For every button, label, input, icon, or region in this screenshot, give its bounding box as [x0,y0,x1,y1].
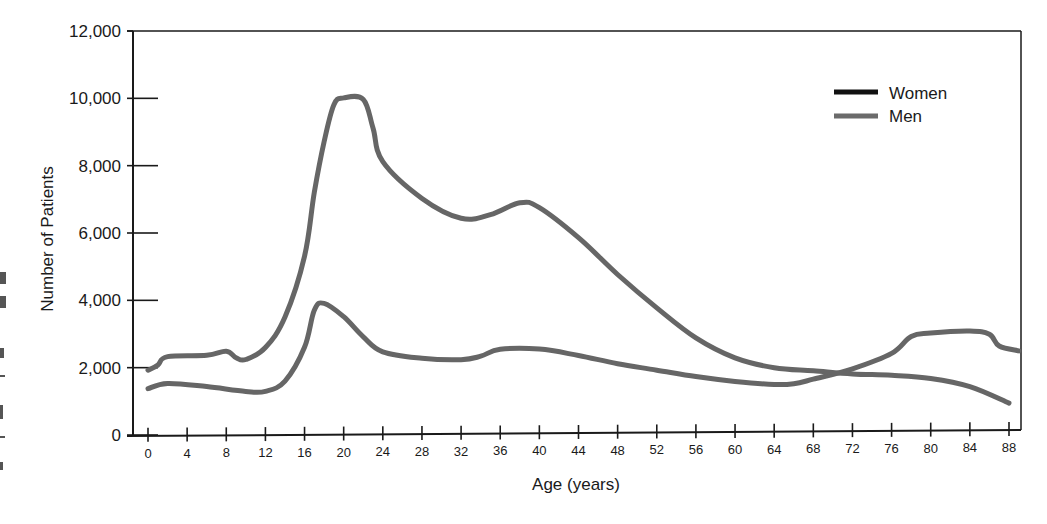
series-line-women [148,303,1019,393]
x-tick-label: 84 [963,440,977,455]
x-tick-label: 68 [806,441,820,456]
x-tick-label: 44 [571,443,585,458]
page-edge-mark [0,296,6,308]
y-tick-label: 2,000 [78,359,121,378]
x-tick-label: 40 [532,443,546,458]
x-tick-label: 72 [845,441,859,456]
y-tick-label: 8,000 [78,157,121,176]
x-tick-label: 80 [923,441,937,456]
x-axis-title: Age (years) [532,475,620,494]
x-axis-ticks: 0481216202428323640444852566064687276808… [144,422,1016,461]
page-edge-mark [0,462,3,470]
x-tick-label: 32 [454,444,468,459]
x-tick-label: 56 [689,442,703,457]
x-tick-label: 52 [650,442,664,457]
line-chart: 02,0004,0006,0008,00010,00012,000 048121… [0,0,1047,524]
page-edge-mark [0,405,3,419]
page-edge-mark [0,348,4,358]
page-edge-mark [0,272,6,284]
y-tick-label: 10,000 [69,89,121,108]
page-edge-mark [0,375,5,377]
x-axis-line [127,430,1021,436]
y-axis-title: Number of Patients [38,166,57,312]
series-layer [148,96,1019,403]
x-tick-label: 16 [297,445,311,460]
legend: Women Men [834,84,947,126]
y-tick-label: 6,000 [78,224,121,243]
x-tick-label: 48 [610,443,624,458]
x-tick-label: 60 [728,442,742,457]
x-tick-label: 4 [184,446,191,461]
x-tick-label: 20 [336,445,350,460]
x-tick-label: 0 [144,446,151,461]
y-tick-label: 12,000 [69,22,121,41]
legend-label-women: Women [889,84,947,103]
x-tick-label: 64 [767,442,781,457]
x-tick-label: 24 [376,444,390,459]
x-tick-label: 12 [258,445,272,460]
legend-label-men: Men [889,107,922,126]
x-tick-label: 88 [1002,440,1016,455]
page-edge-mark [0,436,5,438]
y-axis-ticks: 02,0004,0006,0008,00010,00012,000 [69,22,158,445]
x-tick-label: 28 [415,444,429,459]
y-tick-label: 0 [112,426,121,445]
x-tick-label: 8 [223,445,230,460]
x-tick-label: 36 [493,443,507,458]
x-tick-label: 76 [884,441,898,456]
y-tick-label: 4,000 [78,291,121,310]
